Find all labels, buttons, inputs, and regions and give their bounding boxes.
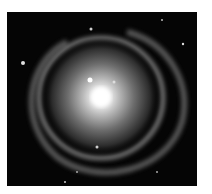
galaxy-photo: [7, 12, 197, 186]
galaxy-illustration: [7, 12, 197, 186]
bright-star: [88, 78, 93, 83]
